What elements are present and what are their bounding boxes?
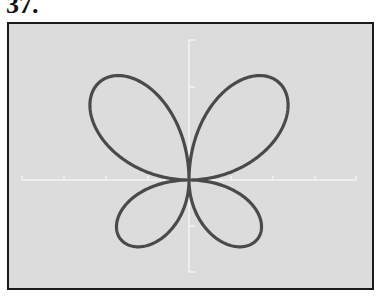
plot-svg	[0, 0, 389, 303]
axes	[22, 40, 356, 272]
